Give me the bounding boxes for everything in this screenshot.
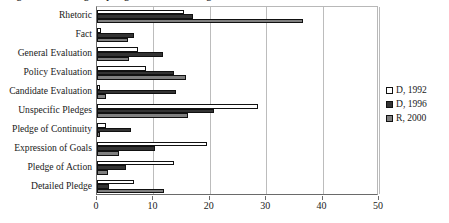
legend-label: D, 1996 [396, 99, 427, 109]
bar [97, 170, 108, 175]
legend-swatch-icon [386, 115, 393, 122]
bar-group [97, 158, 377, 177]
bar [97, 151, 119, 156]
category-label: Expression of Goals [14, 142, 92, 153]
bar-group [97, 26, 377, 45]
legend-swatch-icon [386, 87, 393, 94]
bar-group [97, 64, 377, 83]
bar-group [97, 45, 377, 64]
category-label: Pledge of Action [28, 161, 92, 172]
category-label: Fact [75, 28, 92, 39]
x-axis: 01020304050 [96, 196, 378, 216]
bar [97, 75, 186, 80]
bar [97, 94, 106, 99]
legend-item: D, 1996 [386, 97, 446, 111]
chart-title: Figure 1. Percentage of pledge and rheto… [8, 0, 378, 2]
x-tick-label: 40 [307, 200, 337, 211]
category-label: Unspecific Pledges [18, 104, 92, 115]
category-label: Candidate Evaluation [9, 85, 92, 96]
legend-item: R, 2000 [386, 111, 446, 125]
x-tick-label: 20 [194, 200, 224, 211]
x-tick-label: 10 [137, 200, 167, 211]
legend-label: R, 2000 [396, 113, 426, 123]
chart-legend: D, 1992D, 1996R, 2000 [386, 83, 446, 125]
category-label: Policy Evaluation [24, 66, 92, 77]
plot-area [96, 6, 378, 195]
bar [97, 128, 131, 133]
bar-rows [97, 7, 377, 194]
bar-group [97, 177, 377, 196]
bar [97, 132, 100, 137]
category-label: Detailed Pledge [31, 180, 92, 191]
bar [97, 189, 164, 194]
x-tick-label: 0 [81, 200, 111, 211]
bar [97, 19, 303, 24]
bar [97, 57, 129, 62]
bar-group [97, 139, 377, 158]
legend-label: D, 1992 [396, 85, 427, 95]
category-label: Rhetoric [59, 9, 92, 20]
category-label: General Evaluation [18, 47, 92, 58]
legend-item: D, 1992 [386, 83, 446, 97]
gridline [379, 7, 380, 194]
bar-group [97, 7, 377, 26]
bar [97, 90, 176, 95]
bar [97, 38, 128, 43]
bar-chart: Figure 1. Percentage of pledge and rheto… [0, 0, 449, 223]
bar-group [97, 83, 377, 102]
x-tick-label: 50 [363, 200, 393, 211]
bar-group [97, 102, 377, 121]
x-tick-label: 30 [250, 200, 280, 211]
bar-group [97, 120, 377, 139]
legend-swatch-icon [386, 101, 393, 108]
category-label: Pledge of Continuity [12, 123, 92, 134]
bar [97, 113, 188, 118]
